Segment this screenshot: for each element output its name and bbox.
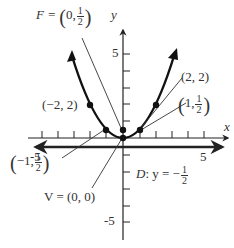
focus-prefix: F = (36, 7, 59, 22)
point-1-half (137, 127, 143, 133)
focus-fraction: 12 (77, 6, 84, 27)
focus-label: F = (0,12) (36, 6, 91, 27)
point-neg2-2 (87, 102, 93, 108)
point-2-2-label: (2, 2) (181, 70, 209, 83)
y-axis-label: y (111, 8, 117, 21)
point-2-2 (153, 102, 159, 108)
parabola-arrow-left (67, 50, 76, 62)
parabola-diagram (0, 0, 234, 248)
x-axis-label: x (224, 120, 230, 133)
x-tick-label-5: 5 (200, 150, 207, 163)
point-vertex (120, 135, 126, 141)
directrix-label: D: y = −12 (136, 165, 189, 186)
vertex-label: V = (0, 0) (44, 190, 95, 203)
point-neg1-half-label: (−1,12) (10, 152, 49, 173)
y-tick-label-neg5: -5 (104, 214, 115, 227)
point-neg2-2-label: (−2, 2) (42, 98, 78, 111)
parabola-arrow-right (168, 48, 178, 60)
point-neg1-half (103, 127, 109, 133)
point-focus (120, 127, 126, 133)
y-tick-label-5: 5 (112, 46, 119, 59)
point-1-half-label: (1,12) (178, 94, 210, 115)
